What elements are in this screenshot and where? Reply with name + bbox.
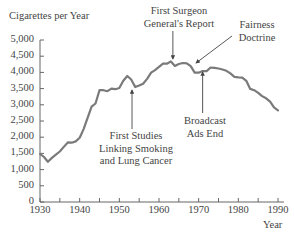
annotation-fairness-doctrine: Fairness Doctrine bbox=[230, 19, 284, 44]
x-tick-label: 1970 bbox=[184, 204, 214, 215]
y-tick-label: 3,500 bbox=[0, 82, 34, 93]
y-tick-label: 3,000 bbox=[0, 98, 34, 109]
x-tick-label: 1990 bbox=[263, 204, 293, 215]
y-tick-label: 2,000 bbox=[0, 130, 34, 141]
y-tick-label: 4,000 bbox=[0, 65, 34, 76]
annotation-first-studies: First Studies Linking Smoking and Lung C… bbox=[98, 130, 174, 168]
x-tick-label: 1940 bbox=[65, 204, 95, 215]
x-tick-label: 1930 bbox=[25, 204, 55, 215]
annotation-surgeon-general: First Surgeon General's Report bbox=[142, 5, 216, 30]
y-axis-title: Cigarettes per Year bbox=[9, 10, 89, 22]
annotation-broadcast-ads-end: Broadcast Ads End bbox=[176, 115, 234, 140]
y-tick-label: 5,000 bbox=[0, 33, 34, 44]
y-tick-label: 2,500 bbox=[0, 114, 34, 125]
x-tick-label: 1960 bbox=[144, 204, 174, 215]
arrow-fairness-doctrine bbox=[196, 36, 232, 63]
x-tick-label: 1980 bbox=[223, 204, 253, 215]
x-tick-label: 1950 bbox=[104, 204, 134, 215]
y-tick-label: 4,500 bbox=[0, 49, 34, 60]
x-axis-title: Year bbox=[263, 219, 282, 231]
cigarette-consumption-chart: Cigarettes per Year Year 05001,0001,5002… bbox=[0, 0, 294, 235]
y-tick-label: 1,000 bbox=[0, 163, 34, 174]
y-tick-label: 1,500 bbox=[0, 146, 34, 157]
y-tick-label: 500 bbox=[0, 179, 34, 190]
